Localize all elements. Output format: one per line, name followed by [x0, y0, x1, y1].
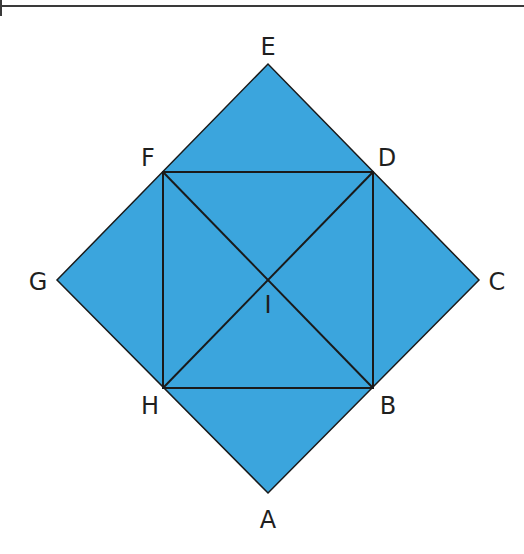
label-G: G — [29, 268, 48, 296]
label-C: C — [489, 268, 506, 296]
label-B: B — [380, 392, 396, 420]
label-E: E — [260, 33, 275, 61]
label-H: H — [141, 392, 159, 420]
label-D: D — [378, 144, 396, 172]
label-F: F — [141, 144, 155, 172]
label-A: A — [260, 506, 277, 534]
geometry-diagram: E F D G C I H B A — [0, 0, 524, 554]
label-I: I — [264, 291, 271, 319]
outer-square-ACEG — [57, 64, 479, 493]
